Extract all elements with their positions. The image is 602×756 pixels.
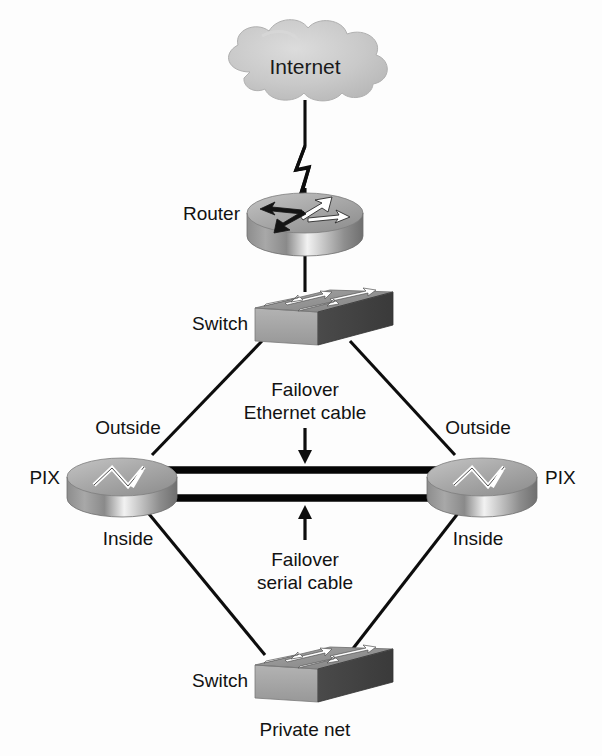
pix-left-inside-label: Inside (103, 528, 154, 549)
failover-ethernet-line1: Failover (271, 379, 339, 400)
callout-failover-ethernet: Failover Ethernet cable (244, 379, 367, 464)
pix-left-device: PIX Outside Inside (29, 417, 177, 549)
switch-bottom-label: Switch (192, 670, 248, 691)
switch-top-device: Switch (192, 288, 393, 345)
topology-svg: Internet Router (0, 0, 602, 756)
pix-left-outside-label: Outside (95, 417, 160, 438)
link-internet-router (296, 100, 309, 197)
pix-right-device: PIX Outside Inside (427, 417, 576, 549)
failover-ethernet-line2: Ethernet cable (244, 402, 367, 423)
pix-right-label: PIX (545, 467, 576, 488)
failover-serial-arrowhead-up-icon (298, 505, 312, 519)
pix-left-label: PIX (29, 467, 60, 488)
pix-right-outside-label: Outside (445, 417, 510, 438)
router-device: Router (183, 193, 363, 256)
internet-label: Internet (269, 55, 340, 78)
link-switch-pix-left (152, 341, 262, 455)
link-pix-left-switch-bottom (140, 503, 265, 655)
network-diagram-canvas: Internet Router (0, 0, 602, 756)
link-failover-cables (165, 470, 442, 498)
failover-serial-line2: serial cable (257, 572, 353, 593)
failover-serial-line1: Failover (271, 549, 339, 570)
link-switch-pix-right (350, 341, 455, 455)
failover-ethernet-arrowhead-down-icon (298, 450, 312, 464)
internet-cloud: Internet (229, 20, 388, 101)
router-label: Router (183, 203, 241, 224)
switch-bottom-device: Switch Private net (192, 645, 393, 740)
link-pix-right-switch-bottom (348, 503, 466, 655)
switch-top-label: Switch (192, 313, 248, 334)
private-net-caption: Private net (260, 719, 352, 740)
callout-failover-serial: Failover serial cable (257, 505, 353, 593)
pix-right-inside-label: Inside (453, 528, 504, 549)
